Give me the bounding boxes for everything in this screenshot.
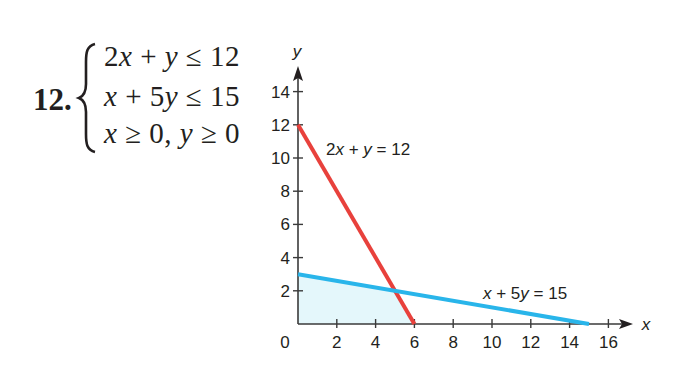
line-label-2x-plus-y: 2x + y = 12	[326, 140, 410, 159]
y-tick-label: 14	[271, 83, 290, 102]
y-tick-label: 4	[281, 249, 290, 268]
feasible-region	[298, 274, 414, 324]
x-tick-label: 6	[410, 333, 419, 352]
y-tick-label: 10	[271, 149, 290, 168]
feasible-region-graph: 24681012141624681012140xy 2x + y = 12x +…	[0, 0, 675, 380]
y-tick-label: 12	[271, 116, 290, 135]
x-tick-label: 10	[483, 333, 502, 352]
y-axis-label: y	[292, 42, 303, 61]
y-tick-label: 6	[281, 215, 290, 234]
x-tick-label: 12	[521, 333, 540, 352]
shaded-feasible-region	[298, 274, 414, 324]
graph-labels: 2x + y = 12x + 5y = 15	[326, 140, 567, 303]
x-axis-label: x	[641, 315, 651, 334]
line-label-x-plus-5y: x + 5y = 15	[482, 284, 567, 303]
x-tick-label: 16	[599, 333, 618, 352]
x-tick-label: 14	[560, 333, 579, 352]
y-tick-label: 8	[281, 182, 290, 201]
x-tick-label: 2	[332, 333, 341, 352]
x-tick-label: 4	[371, 333, 380, 352]
origin-label: 0	[280, 333, 289, 352]
textbook-page: 12. 2x + y ≤ 12 x + 5y ≤ 15 x ≥ 0, y ≥ 0…	[0, 0, 675, 380]
x-tick-label: 8	[448, 333, 457, 352]
y-tick-label: 2	[281, 282, 290, 301]
